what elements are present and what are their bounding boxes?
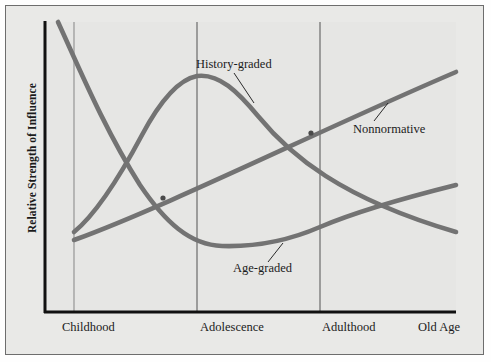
chart-canvas xyxy=(0,0,491,362)
chart-figure: Relative Strength of Influence Childhood… xyxy=(0,0,491,362)
intersection-marker-1 xyxy=(160,195,165,200)
series-label-history-graded: History-graded xyxy=(196,57,272,72)
y-axis-title: Relative Strength of Influence xyxy=(26,63,38,253)
x-tick-label-childhood: Childhood xyxy=(62,320,115,335)
x-tick-label-adolescence: Adolescence xyxy=(200,320,264,335)
intersection-marker-2 xyxy=(308,130,313,135)
x-tick-label-adulthood: Adulthood xyxy=(322,320,375,335)
series-label-age-graded: Age-graded xyxy=(233,261,292,276)
series-label-nonnormative: Nonnormative xyxy=(353,122,425,137)
x-tick-label-old-age: Old Age xyxy=(418,320,460,335)
leader-line-age-graded xyxy=(268,243,283,262)
